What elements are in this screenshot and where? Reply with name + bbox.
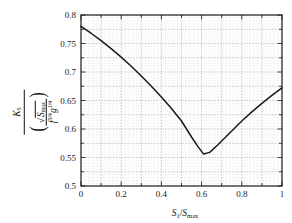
y-title-g: g bbox=[48, 108, 58, 113]
y-title-K: K bbox=[12, 111, 22, 117]
x-title-sub2: max bbox=[187, 212, 199, 219]
x-tick-label: 0.6 bbox=[196, 189, 208, 199]
y-title-numerator: KS bbox=[12, 105, 24, 119]
chart-figure: 00.20.40.60.81 0.50.550.60.650.70.750.8 … bbox=[0, 0, 292, 223]
svg-text:S1/Smax: S1/Smax bbox=[172, 208, 199, 219]
y-title-g-sup: 1/4 bbox=[47, 101, 53, 109]
y-title-f-sup: 3/4 bbox=[47, 113, 53, 121]
left-paren: ( bbox=[25, 126, 47, 131]
x-tick-labels: 00.20.40.60.81 bbox=[79, 189, 285, 199]
x-tick-label: 0.2 bbox=[116, 189, 127, 199]
sqrt-icon: √ bbox=[35, 118, 45, 123]
x-tick-label: 0.4 bbox=[156, 189, 168, 199]
y-title-inner-den: f3/4g1/4 bbox=[47, 99, 59, 126]
y-axis-title: KS (√Smaxf3/4g1/4) bbox=[8, 62, 64, 162]
y-tick-label: 0.5 bbox=[65, 181, 77, 191]
y-title-inner-fraction: √Smaxf3/4g1/4 bbox=[36, 99, 59, 126]
x-tick-label: 1 bbox=[280, 189, 285, 199]
right-paren: ) bbox=[25, 92, 47, 97]
y-title-S-sub: max bbox=[39, 102, 45, 112]
y-tick-label: 0.75 bbox=[60, 39, 76, 49]
y-title-sqrt: √Smax bbox=[36, 99, 46, 125]
y-title-denominator: (√Smaxf3/4g1/4) bbox=[24, 89, 60, 134]
x-tick-label: 0.8 bbox=[236, 189, 248, 199]
y-title-radicand: Smax bbox=[34, 101, 45, 118]
y-title-K-sub: S bbox=[16, 107, 22, 110]
x-tick-label: 0 bbox=[79, 189, 84, 199]
y-tick-label: 0.7 bbox=[65, 67, 77, 77]
y-tick-label: 0.8 bbox=[65, 10, 77, 20]
y-title-outer-fraction: KS (√Smaxf3/4g1/4) bbox=[12, 89, 60, 134]
y-title-S: S bbox=[35, 112, 45, 117]
y-title-f: f bbox=[48, 121, 58, 124]
x-axis-title: S1/Smax bbox=[172, 208, 199, 219]
y-tick-label: 0.6 bbox=[65, 124, 77, 134]
